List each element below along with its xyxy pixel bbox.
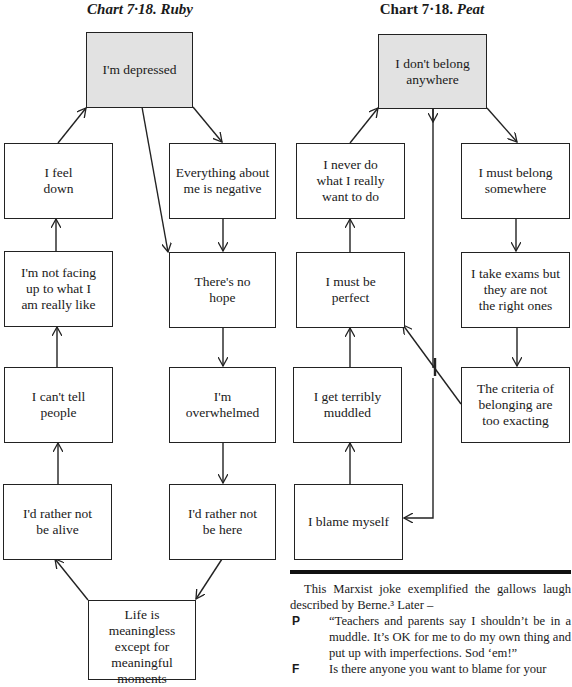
node-label: I'm depressed: [102, 62, 176, 78]
node-label: I'd rather not be alive: [23, 506, 92, 538]
node-rather-not-be-alive: I'd rather not be alive: [3, 484, 112, 560]
node-dont-belong: I don't belong anywhere: [378, 34, 487, 109]
node-overwhelmed: I'm overwhelmed: [169, 367, 276, 443]
node-blame-myself: I blame myself: [294, 484, 403, 560]
node-label: Life is meaningless except for meaningfu…: [93, 607, 191, 687]
node-not-facing-up: I'm not facing up to what I am really li…: [4, 251, 113, 327]
node-criteria-exacting: The criteria of belonging are too exacti…: [461, 367, 570, 443]
node-must-be-perfect: I must be perfect: [296, 252, 405, 328]
node-label: Everything about me is negative: [176, 165, 269, 197]
peat-title-prefix: Chart 7·18.: [380, 1, 453, 17]
node-life-meaningless: Life is meaningless except for meaningfu…: [88, 600, 196, 680]
node-i-feel-down: I feel down: [4, 143, 113, 219]
node-must-belong: I must belong somewhere: [461, 143, 570, 219]
speaker-label: P: [292, 613, 300, 629]
node-rather-not-be-here: I'd rather not be here: [169, 484, 276, 560]
dialogue-text: Is there anyone you want to blame for yo…: [329, 661, 571, 677]
node-label: I feel down: [44, 165, 74, 197]
node-label: I get terribly muddled: [314, 389, 381, 421]
ruby-title-prefix: Chart 7·18.: [87, 1, 157, 17]
peat-chart-title: Chart 7·18. Peat: [350, 1, 514, 18]
node-label: I'm not facing up to what I am really li…: [21, 265, 96, 313]
node-label: I must be perfect: [325, 274, 375, 306]
node-terribly-muddled: I get terribly muddled: [293, 367, 402, 443]
node-label: I must belong somewhere: [478, 165, 552, 197]
node-label: I'd rather not be here: [188, 506, 257, 538]
node-label: There's no hope: [194, 274, 250, 306]
node-label: I never do what I really want to do: [316, 157, 384, 205]
node-never-do: I never do what I really want to do: [296, 143, 405, 219]
node-everything-negative: Everything about me is negative: [169, 143, 276, 219]
ruby-chart-title: Chart 7·18. Ruby: [60, 1, 220, 18]
speaker-label: F: [292, 661, 299, 677]
node-label: I blame myself: [308, 514, 389, 530]
node-take-exams: I take exams but they are not the right …: [461, 252, 570, 328]
section-divider: [290, 570, 571, 574]
dialogue-line-f: F Is there anyone you want to blame for …: [290, 661, 571, 677]
node-label: I'm overwhelmed: [186, 389, 259, 421]
node-im-depressed: I'm depressed: [86, 32, 193, 108]
dialogue-line-p: P “Teachers and parents say I shouldn’t …: [290, 613, 571, 661]
node-label: I don't belong anywhere: [395, 56, 469, 88]
dialogue-text: “Teachers and parents say I shouldn’t be…: [329, 613, 571, 661]
ruby-title-name: Ruby: [160, 1, 193, 17]
node-no-hope: There's no hope: [169, 252, 276, 328]
node-label: The criteria of belonging are too exacti…: [477, 381, 554, 429]
body-paragraph: This Marxist joke exemplified the gallow…: [290, 581, 571, 613]
node-label: I can't tell people: [32, 389, 85, 421]
node-label: I take exams but they are not the right …: [471, 266, 560, 314]
node-cant-tell-people: I can't tell people: [4, 367, 113, 443]
peat-title-name: Peat: [457, 1, 485, 17]
